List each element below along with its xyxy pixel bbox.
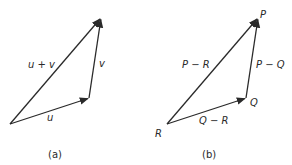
panel-b: R Q P Q − R P − Q P − R (b) bbox=[155, 9, 285, 160]
point-p-label: P bbox=[260, 9, 267, 20]
vector-q-minus-r-label: Q − R bbox=[199, 115, 229, 126]
vector-p-minus-r-label: P − R bbox=[182, 59, 210, 70]
vector-u-plus-v-label: u + v bbox=[28, 59, 56, 70]
point-r-label: R bbox=[155, 128, 162, 139]
panel-b-caption: (b) bbox=[202, 149, 216, 160]
point-q-label: Q bbox=[250, 97, 258, 108]
vector-u-plus-v-arrow bbox=[10, 19, 100, 124]
vector-p-minus-q-label: P − Q bbox=[256, 59, 285, 70]
vector-v-label: v bbox=[99, 58, 106, 69]
vector-p-minus-r-arrow bbox=[167, 19, 257, 124]
panel-a: u v u + v (a) bbox=[10, 19, 106, 160]
vector-addition-diagram: u v u + v (a) R Q P Q − R P − Q P − R (b… bbox=[0, 0, 292, 165]
panel-a-caption: (a) bbox=[48, 149, 62, 160]
vector-u-label: u bbox=[47, 112, 53, 123]
